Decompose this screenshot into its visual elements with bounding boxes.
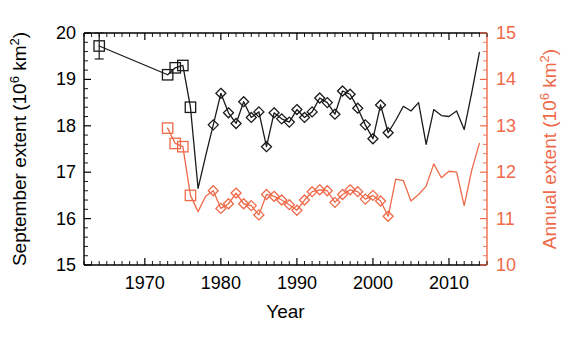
y-tick-label-left: 18 [56,116,76,136]
y-tick-label-left: 20 [56,23,76,43]
tick-labels: 1970198019902000201015161718192010111213… [56,23,516,293]
y-tick-label-left: 19 [56,69,76,89]
y-tick-label-right: 11 [496,209,515,229]
x-tick-label: 2000 [353,273,393,293]
x-tick-label: 1990 [277,273,317,293]
chart-figure: 1970198019902000201015161718192010111213… [0,0,580,339]
tick-marks [84,33,487,265]
y-tick-label-right: 15 [496,23,516,43]
chart-svg: 1970198019902000201015161718192010111213… [0,0,580,339]
series-september [94,33,479,188]
x-axis-title: Year [266,301,305,322]
series-line [168,128,480,216]
plot-frame [84,33,487,265]
y-tick-label-right: 13 [496,116,516,136]
y-tick-label-right: 14 [496,69,516,89]
x-tick-label: 1970 [125,273,165,293]
y-tick-label-left: 15 [56,255,76,275]
y-axis-title-right: Annual extent (106 km2) [537,49,561,249]
y-tick-label-right: 10 [496,255,516,275]
y-tick-label-left: 16 [56,209,76,229]
x-tick-label: 2010 [429,273,469,293]
y-axis-title-left: September extent (106 km2) [7,32,31,266]
y-tick-label-right: 12 [496,162,516,182]
y-tick-label-left: 17 [56,162,76,182]
x-tick-label: 1980 [201,273,241,293]
